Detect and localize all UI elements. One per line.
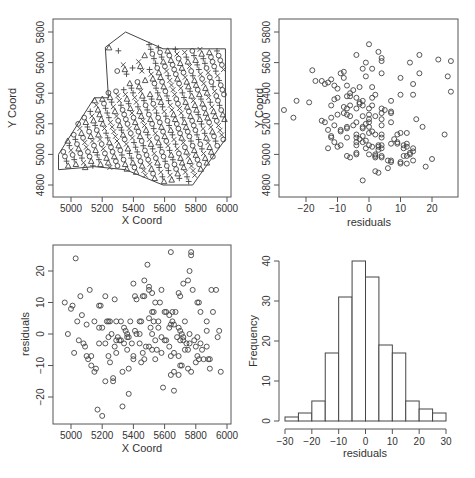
triangle-marker [142,77,148,82]
data-point [120,404,125,409]
data-point [373,114,378,119]
data-point [156,325,161,330]
data-point [326,146,331,151]
circle-marker [218,58,223,63]
data-point [181,338,186,343]
data-point [131,357,136,362]
data-point [153,357,158,362]
circle-marker [146,157,151,162]
triangle-marker [207,144,213,149]
cross-marker [98,137,103,142]
data-point [335,112,340,117]
data-point [176,354,181,359]
data-point [370,66,375,71]
data-point [100,413,105,418]
data-point [159,335,164,340]
data-point [332,140,337,145]
triangle-marker [211,109,217,114]
data-point [65,332,70,337]
circle-marker [110,149,115,154]
data-point [376,49,381,54]
cross-marker [89,114,94,119]
data-point [360,178,365,183]
circle-marker [167,53,172,58]
cross-marker [129,111,134,116]
data-point [420,124,425,129]
data-point [150,332,155,337]
y-tick-label: 30 [261,295,272,307]
cross-marker [134,100,139,105]
x-tick-label: 30 [440,436,452,447]
circle-marker [177,81,182,86]
plus-marker [207,99,213,105]
circle-marker [157,120,162,125]
data-point [142,357,147,362]
circle-marker [195,87,200,92]
data-point [181,281,186,286]
data-point [411,158,416,163]
plot-frame [279,19,458,197]
data-point [73,256,78,261]
cross-marker [139,69,144,74]
triangle-marker [79,130,85,135]
circle-marker [173,72,178,77]
cross-marker [201,126,206,131]
cross-marker [115,94,120,99]
x-tick-label: 20 [426,203,438,214]
data-point [313,78,318,83]
data-point [131,281,136,286]
data-point [108,360,113,365]
cross-marker [182,50,187,55]
histogram-bar [433,413,446,421]
data-point [210,309,215,314]
triangle-marker [210,129,216,134]
x-tick-label: 20 [414,436,426,447]
circle-marker [220,87,225,92]
circle-marker [170,62,175,67]
data-point [332,83,337,88]
circle-marker [87,154,92,159]
data-point [436,57,441,62]
data-point [111,379,116,384]
x-tick-label: 5800 [185,430,208,441]
data-point [106,354,111,359]
circle-marker [155,66,160,71]
circle-marker [200,76,205,81]
data-point [414,117,419,122]
cross-marker [153,106,158,111]
data-point [150,291,155,296]
circle-marker [82,115,87,120]
cross-marker [172,137,177,142]
triangle-marker [143,127,149,132]
data-point [398,75,403,80]
x-tick-label: 5200 [91,203,114,214]
circle-marker [136,154,141,159]
data-point [103,341,108,346]
circle-marker [71,132,76,137]
circle-marker [153,156,158,161]
x-tick-label: 0 [366,203,372,214]
plus-marker [173,141,179,147]
data-point [294,98,299,103]
cross-marker [201,81,206,86]
circle-marker [172,67,177,72]
cross-marker [198,47,203,52]
triangle-marker [142,53,148,58]
data-point [159,287,164,292]
circle-marker [214,94,219,99]
data-point [167,344,172,349]
circle-marker [143,148,148,153]
circle-marker [163,89,168,94]
data-point [281,108,286,113]
triangle-marker [169,177,175,182]
circle-marker [207,75,212,80]
cross-marker [172,92,177,97]
data-point [126,366,131,371]
circle-marker [115,69,120,74]
cross-marker [84,145,89,150]
data-point [186,278,191,283]
triangle-marker [124,96,130,101]
circle-marker [193,128,198,133]
cross-marker [152,151,157,156]
triangle-marker [95,107,101,112]
